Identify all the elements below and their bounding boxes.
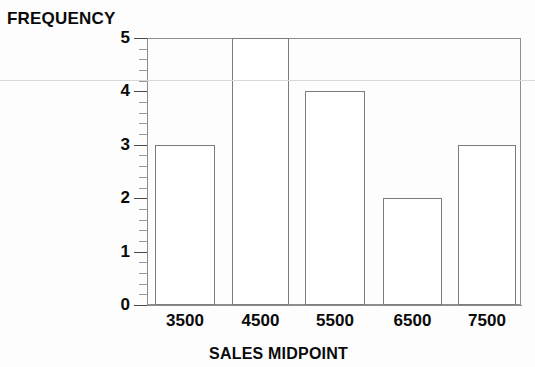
y-axis-minor-tick (139, 262, 147, 263)
y-axis-line (147, 38, 148, 306)
y-axis-minor-tick (139, 209, 147, 210)
x-axis-line (147, 305, 522, 306)
y-axis-tick-label: 1 (102, 242, 130, 262)
y-axis-minor-tick (139, 70, 147, 71)
y-axis-minor-tick (139, 134, 147, 135)
y-axis-major-tick (134, 252, 147, 253)
y-axis-minor-tick (139, 220, 147, 221)
y-axis-labels: 012345 (94, 0, 130, 367)
bar (305, 91, 365, 305)
histogram-screenshot: FREQUENCY 012345 35004500550065007500 SA… (0, 0, 535, 367)
y-axis-minor-tick (139, 123, 147, 124)
bar (232, 38, 289, 305)
x-axis-tick-label: 3500 (145, 311, 225, 331)
bar (458, 145, 516, 305)
bar (155, 145, 215, 305)
y-axis-major-tick (134, 198, 147, 199)
x-axis-tick-label: 6500 (373, 311, 453, 331)
y-axis-tick-label: 3 (102, 135, 130, 155)
y-axis-minor-tick (139, 113, 147, 114)
y-axis-major-tick (134, 145, 147, 146)
y-axis-minor-tick (139, 294, 147, 295)
y-axis-major-tick (134, 305, 147, 306)
x-axis-tick-label: 5500 (295, 311, 375, 331)
y-axis-minor-tick (139, 273, 147, 274)
y-axis-minor-tick (139, 102, 147, 103)
y-axis-minor-tick (139, 81, 147, 82)
scan-artifact-line (0, 80, 535, 81)
y-axis-minor-tick (139, 155, 147, 156)
y-axis-minor-tick (139, 241, 147, 242)
y-axis-minor-tick (139, 188, 147, 189)
y-axis-major-tick (134, 91, 147, 92)
y-axis-tick-label: 4 (102, 81, 130, 101)
y-axis-minor-tick (139, 230, 147, 231)
y-axis-tick-label: 2 (102, 188, 130, 208)
x-axis-tick-label: 4500 (221, 311, 301, 331)
y-axis-minor-tick (139, 166, 147, 167)
y-axis-minor-tick (139, 49, 147, 50)
bar (383, 198, 442, 305)
y-axis-major-tick (134, 38, 147, 39)
y-axis-minor-tick (139, 177, 147, 178)
y-axis-tick-label: 5 (102, 28, 130, 48)
y-axis-minor-tick (139, 59, 147, 60)
x-axis-title: SALES MIDPOINT (0, 345, 535, 363)
x-axis-tick-label: 7500 (447, 311, 527, 331)
y-axis-minor-tick (139, 284, 147, 285)
y-axis-tick-label: 0 (102, 295, 130, 315)
